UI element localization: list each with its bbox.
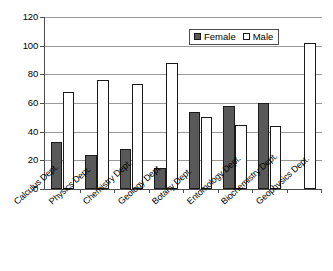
bar-female — [189, 112, 201, 189]
legend-item-female: Female — [194, 32, 236, 42]
chart-legend: FemaleMale — [189, 29, 279, 45]
legend-item-male: Male — [243, 32, 274, 42]
y-tick-label: 40 — [8, 127, 38, 137]
y-tick-label: 100 — [8, 41, 38, 51]
y-tick-label: 120 — [8, 12, 38, 22]
bar-groups — [45, 17, 321, 189]
y-tick-label: 20 — [8, 155, 38, 165]
y-tick-label: 60 — [8, 98, 38, 108]
y-tick-label: 80 — [8, 69, 38, 79]
legend-label: Male — [253, 32, 274, 42]
x-axis-labels: Calculus Dept.Physics Dept.Chemistry Dep… — [0, 193, 333, 271]
legend-label: Female — [204, 32, 236, 42]
bar-male — [132, 84, 144, 189]
bar-male — [304, 43, 316, 189]
bar-male — [97, 80, 109, 189]
legend-swatch-icon — [243, 33, 250, 40]
bar-male — [166, 63, 178, 189]
legend-swatch-icon — [194, 33, 201, 40]
bar-chart: 020406080100120 Calculus Dept.Physics De… — [0, 0, 333, 271]
